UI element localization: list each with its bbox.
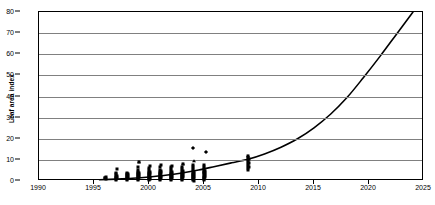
data-point [149,165,152,168]
x-tick-label: 2010 [250,184,266,191]
data-point [160,164,163,167]
y-tick-mark [15,11,20,12]
data-point [193,171,196,174]
y-tick-mark [15,158,20,159]
data-point [149,171,152,174]
y-tick-label: 30 [6,113,14,120]
y-tick-label: 50 [6,71,14,78]
x-tick-label: 2020 [360,184,376,191]
gridline [39,139,422,140]
data-point [105,178,108,181]
data-point [192,164,195,167]
gridline [39,75,422,76]
y-tick-mark [15,74,20,75]
data-point [137,166,140,169]
data-point [182,169,185,172]
x-tick-mark [368,180,369,184]
x-tick-mark [148,180,149,184]
y-axis: 01020304050607080 [0,0,38,205]
y-tick-mark [15,95,20,96]
data-point [160,170,163,173]
gridline [39,97,422,98]
x-tick-label: 2025 [415,184,431,191]
y-tick-label: 20 [6,134,14,141]
data-point [248,166,251,169]
x-tick-label: 2005 [195,184,211,191]
gridline [39,54,422,55]
x-tick-mark [258,180,259,184]
data-point [138,172,141,175]
data-point [203,163,206,166]
data-point [181,162,185,165]
x-tick-mark [93,180,94,184]
x-tick-label: 1990 [30,184,46,191]
leaf-area-index-chart: N = 15 Cohorts, R² = 0.7356 Leaf area in… [0,0,435,205]
data-point [137,161,141,164]
data-point [204,169,207,172]
y-tick-mark [15,137,20,138]
y-tick-mark [15,32,20,33]
data-point [193,179,196,182]
data-point [116,168,119,171]
gridline [39,33,422,34]
data-point [127,173,130,176]
y-tick-mark [15,53,20,54]
y-tick-label: 80 [6,8,14,15]
y-tick-label: 10 [6,155,14,162]
data-point [171,164,174,167]
data-point [248,157,251,160]
x-tick-label: 1995 [85,184,101,191]
plot-area [38,11,423,180]
data-point [192,159,196,162]
data-point [246,154,250,157]
x-tick-mark [313,180,314,184]
x-tick-label: 2000 [140,184,156,191]
x-tick-label: 2015 [305,184,321,191]
data-point [181,166,184,169]
x-tick-mark [203,180,204,184]
y-tick-label: 60 [6,50,14,57]
data-point [116,174,119,177]
gridline [39,160,422,161]
y-tick-label: 0 [10,177,14,184]
data-point [171,170,174,173]
y-tick-label: 70 [6,29,14,36]
data-point [248,162,251,165]
y-tick-label: 40 [6,92,14,99]
gridline [39,118,422,119]
y-tick-mark [15,180,20,181]
y-tick-mark [15,116,20,117]
